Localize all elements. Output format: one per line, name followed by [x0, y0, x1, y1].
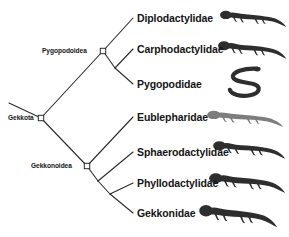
taxon-label-diplodactylidae: Diplodactylidae	[137, 13, 213, 24]
branch-internal-to-carphodactylidae	[115, 49, 133, 68]
clade-label-gekkota: Gekkota	[8, 114, 34, 121]
branch-internal2-to-phyllodactylidae	[110, 183, 133, 194]
taxon-label-carphodactylidae: Carphodactylidae	[137, 44, 224, 55]
taxon-label-gekkonidae: Gekkonidae	[137, 208, 196, 219]
branch-pygopodoidea-to-diplodactylidae	[103, 18, 133, 51]
taxon-label-eublepharidae: Eublepharidae	[137, 112, 208, 123]
taxon-label-phyllodactylidae: Phyllodactylidae	[137, 178, 218, 189]
taxon-label-sphaerodactylidae: Sphaerodactylidae	[137, 147, 229, 158]
clade-label-pygopodoidea: Pygopodoidea	[42, 47, 87, 54]
node-marker-gekkonoidea	[84, 163, 89, 168]
branch-gekkonoidea-to-eublepharidae	[87, 117, 133, 166]
branch-internal1-to-internal2	[98, 181, 110, 194]
clade-label-gekkonoidea: Gekkonoidea	[31, 162, 72, 169]
phylogenetic-tree-figure: DiplodactylidaeCarphodactylidaePygopodid…	[0, 0, 289, 237]
node-marker-gekkota	[38, 115, 43, 120]
taxon-label-pygopodidae: Pygopodidae	[137, 79, 202, 90]
pygopodid-legless-lizard-photo	[230, 67, 261, 96]
phyllodactylid-gecko-photo	[209, 173, 285, 193]
branch-internal1-to-sphaerodactylidae	[98, 152, 133, 181]
carphodactylid-gecko-photo	[218, 41, 286, 59]
node-marker-pygopodoidea	[100, 48, 105, 53]
gekkonid-gecko-photo	[199, 205, 277, 227]
branch-gekkota-to-pygopodoidea	[41, 51, 103, 118]
branch-internal2-to-gekkonidae	[110, 194, 133, 213]
eublepharid-gecko-photo	[207, 111, 283, 127]
diplodactylid-gecko-photo	[220, 11, 286, 27]
branch-internal-to-pygopodidae	[115, 68, 133, 84]
branch-gekkota-to-gekkonoidea	[41, 118, 87, 166]
